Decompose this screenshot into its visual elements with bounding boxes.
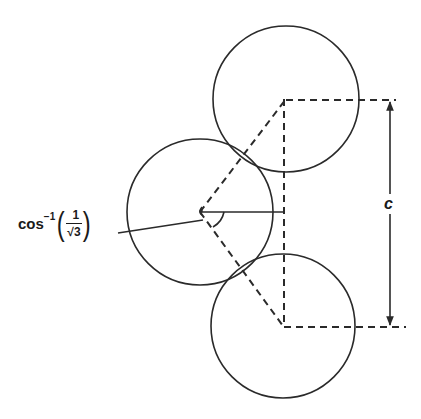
center-point (199, 209, 203, 213)
dimension-label-c: c (384, 194, 393, 214)
fraction: 1 √3 (66, 208, 83, 239)
angle-leader-line (118, 220, 203, 233)
numerator: 1 (66, 208, 83, 224)
denominator: √3 (67, 224, 80, 239)
close-paren: ) (83, 206, 91, 240)
cos-function: cos (18, 215, 44, 232)
angle-label: cos −1 ( 1 √3 ) (18, 203, 93, 243)
angle-arc (213, 212, 224, 227)
inverse-superscript: −1 (44, 211, 55, 222)
dashed-center-to-top (200, 99, 286, 212)
open-paren: ( (57, 206, 65, 240)
